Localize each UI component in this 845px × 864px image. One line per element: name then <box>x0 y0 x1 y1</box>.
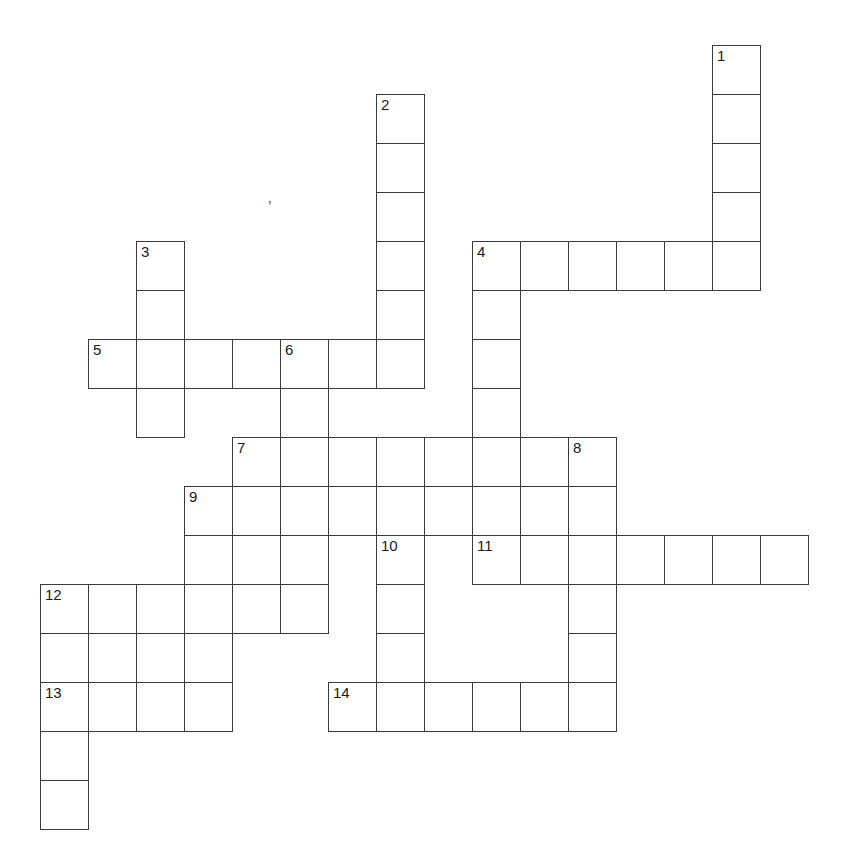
crossword-cell[interactable] <box>40 780 89 830</box>
cell-number-9: 9 <box>189 489 197 505</box>
crossword-cell[interactable] <box>424 437 473 487</box>
crossword-cell[interactable] <box>328 339 377 389</box>
crossword-cell[interactable] <box>376 241 425 291</box>
crossword-cell[interactable] <box>568 241 617 291</box>
crossword-cell[interactable] <box>664 535 713 585</box>
cell-number-6: 6 <box>285 342 293 358</box>
crossword-cell[interactable] <box>376 682 425 732</box>
cell-number-5: 5 <box>93 342 101 358</box>
crossword-cell[interactable] <box>184 535 233 585</box>
crossword-cell[interactable] <box>568 584 617 634</box>
crossword-cell[interactable] <box>280 584 329 634</box>
crossword-cell-14[interactable]: 14 <box>328 682 377 732</box>
crossword-cell[interactable] <box>520 241 569 291</box>
crossword-cell-7[interactable]: 7 <box>232 437 281 487</box>
crossword-cell[interactable] <box>376 633 425 683</box>
crossword-grid: 1234567891011121314’ <box>0 0 845 864</box>
crossword-cell[interactable] <box>184 682 233 732</box>
crossword-cell-6[interactable]: 6 <box>280 339 329 389</box>
crossword-cell[interactable] <box>472 388 521 438</box>
cell-number-14: 14 <box>333 685 350 701</box>
crossword-cell[interactable] <box>376 437 425 487</box>
cell-number-10: 10 <box>381 538 398 554</box>
cell-number-1: 1 <box>717 48 725 64</box>
crossword-cell[interactable] <box>328 437 377 487</box>
crossword-cell[interactable] <box>184 339 233 389</box>
cell-number-13: 13 <box>45 685 62 701</box>
cell-number-3: 3 <box>141 244 149 260</box>
crossword-cell-5[interactable]: 5 <box>88 339 137 389</box>
stray-mark: ’ <box>268 200 272 216</box>
crossword-cell[interactable] <box>472 437 521 487</box>
cell-number-12: 12 <box>45 587 62 603</box>
crossword-cell[interactable] <box>712 192 761 242</box>
cell-number-2: 2 <box>381 97 389 113</box>
crossword-cell[interactable] <box>136 290 185 340</box>
crossword-cell[interactable] <box>88 633 137 683</box>
crossword-cell[interactable] <box>40 633 89 683</box>
cell-number-11: 11 <box>477 538 493 554</box>
crossword-cell[interactable] <box>136 633 185 683</box>
crossword-cell[interactable] <box>472 486 521 536</box>
crossword-cell[interactable] <box>520 682 569 732</box>
crossword-cell[interactable] <box>568 535 617 585</box>
crossword-cell-4[interactable]: 4 <box>472 241 521 291</box>
crossword-cell[interactable] <box>280 437 329 487</box>
crossword-cell[interactable] <box>376 143 425 193</box>
crossword-cell[interactable] <box>88 682 137 732</box>
crossword-cell-9[interactable]: 9 <box>184 486 233 536</box>
crossword-cell[interactable] <box>280 535 329 585</box>
crossword-cell[interactable] <box>520 486 569 536</box>
crossword-cell[interactable] <box>136 339 185 389</box>
crossword-cell[interactable] <box>88 584 137 634</box>
crossword-cell[interactable] <box>616 241 665 291</box>
crossword-cell[interactable] <box>712 94 761 144</box>
crossword-cell[interactable] <box>520 437 569 487</box>
crossword-cell[interactable] <box>568 486 617 536</box>
crossword-cell[interactable] <box>136 584 185 634</box>
crossword-cell-12[interactable]: 12 <box>40 584 89 634</box>
crossword-cell-11[interactable]: 11 <box>472 535 521 585</box>
crossword-cell[interactable] <box>136 388 185 438</box>
cell-number-7: 7 <box>237 440 245 456</box>
crossword-cell[interactable] <box>712 143 761 193</box>
crossword-cell[interactable] <box>424 486 473 536</box>
crossword-cell[interactable] <box>664 241 713 291</box>
crossword-cell[interactable] <box>280 486 329 536</box>
crossword-cell[interactable] <box>472 339 521 389</box>
crossword-cell-13[interactable]: 13 <box>40 682 89 732</box>
crossword-cell[interactable] <box>376 192 425 242</box>
crossword-cell[interactable] <box>568 682 617 732</box>
crossword-cell-8[interactable]: 8 <box>568 437 617 487</box>
crossword-cell[interactable] <box>376 584 425 634</box>
crossword-cell[interactable] <box>184 633 233 683</box>
crossword-cell[interactable] <box>40 731 89 781</box>
crossword-cell[interactable] <box>232 486 281 536</box>
crossword-cell[interactable] <box>232 584 281 634</box>
crossword-cell[interactable] <box>184 584 233 634</box>
crossword-cell[interactable] <box>136 682 185 732</box>
crossword-cell-10[interactable]: 10 <box>376 535 425 585</box>
crossword-cell[interactable] <box>376 290 425 340</box>
crossword-cell[interactable] <box>760 535 809 585</box>
crossword-cell[interactable] <box>616 535 665 585</box>
crossword-cell[interactable] <box>568 633 617 683</box>
crossword-cell[interactable] <box>472 682 521 732</box>
crossword-cell-3[interactable]: 3 <box>136 241 185 291</box>
crossword-cell[interactable] <box>280 388 329 438</box>
crossword-cell[interactable] <box>232 535 281 585</box>
crossword-cell[interactable] <box>232 339 281 389</box>
crossword-cell[interactable] <box>376 339 425 389</box>
crossword-cell[interactable] <box>712 241 761 291</box>
crossword-cell[interactable] <box>328 486 377 536</box>
crossword-cell[interactable] <box>376 486 425 536</box>
cell-number-8: 8 <box>573 440 581 456</box>
cell-number-4: 4 <box>477 244 485 260</box>
crossword-cell[interactable] <box>472 290 521 340</box>
crossword-cell[interactable] <box>424 682 473 732</box>
crossword-cell[interactable] <box>520 535 569 585</box>
crossword-cell[interactable] <box>712 535 761 585</box>
crossword-cell-1[interactable]: 1 <box>712 45 761 95</box>
crossword-cell-2[interactable]: 2 <box>376 94 425 144</box>
